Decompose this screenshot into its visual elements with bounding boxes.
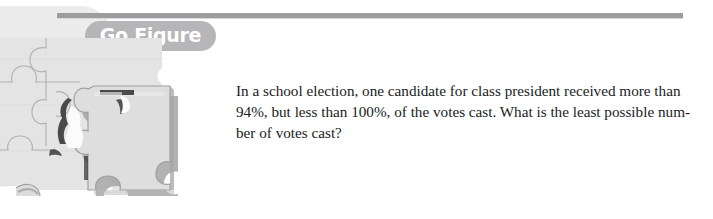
problem-line: 94%, but less than 100%, of the votes ca… xyxy=(236,101,688,122)
header-divider-rule xyxy=(57,13,683,18)
problem-statement: In a school election, one candidate for … xyxy=(236,80,688,143)
jigsaw-puzzle-illustration xyxy=(0,38,194,196)
problem-line: ber of votes cast? xyxy=(236,122,688,143)
problem-line: In a school election, one candidate for … xyxy=(236,80,688,101)
go-figure-sidebar-panel: Go Figure xyxy=(0,0,713,219)
